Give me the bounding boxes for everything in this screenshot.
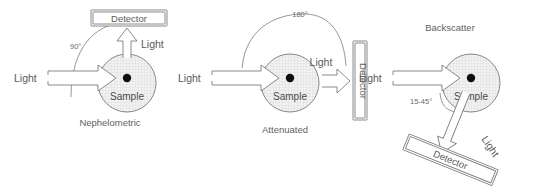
panel-caption-backscatter: Backscatter <box>425 22 475 33</box>
panel-caption-attenuated: Attenuated <box>262 124 308 135</box>
scattered-light-label: Light <box>141 38 164 50</box>
scattered-light-label: Light <box>479 133 502 159</box>
detector-label: Detector <box>111 13 147 24</box>
sample-center-dot <box>467 74 475 82</box>
sample-label: Sample <box>110 91 144 102</box>
transmitted-light-arrow <box>322 69 350 93</box>
panel-backscatter: Backscatter Sample Light 15-45° Light De… <box>359 22 502 186</box>
scattered-light-label: Light <box>310 56 333 68</box>
panel-caption-nephelometric: Nephelometric <box>79 117 140 128</box>
incident-light-label: Light <box>359 72 382 84</box>
angle-label-180: 180° <box>292 10 308 19</box>
diagram-canvas: 90° Detector Sample Light Light Nephelom… <box>0 0 534 191</box>
incident-light-label: Light <box>178 72 201 84</box>
incident-light-label: Light <box>14 72 37 84</box>
scattered-light-arrow <box>117 28 137 58</box>
panel-attenuated: 180° Sample Light Light Detector Attenua… <box>178 10 369 135</box>
sample-center-dot <box>123 74 131 82</box>
sample-label: Sample <box>273 91 307 102</box>
angle-label-90: 90° <box>70 42 81 51</box>
sample-center-dot <box>286 74 294 82</box>
light-scattering-diagram: 90° Detector Sample Light Light Nephelom… <box>0 0 534 191</box>
panel-nephelometric: 90° Detector Sample Light Light Nephelom… <box>14 10 167 128</box>
angle-label-15-45: 15-45° <box>410 97 432 106</box>
